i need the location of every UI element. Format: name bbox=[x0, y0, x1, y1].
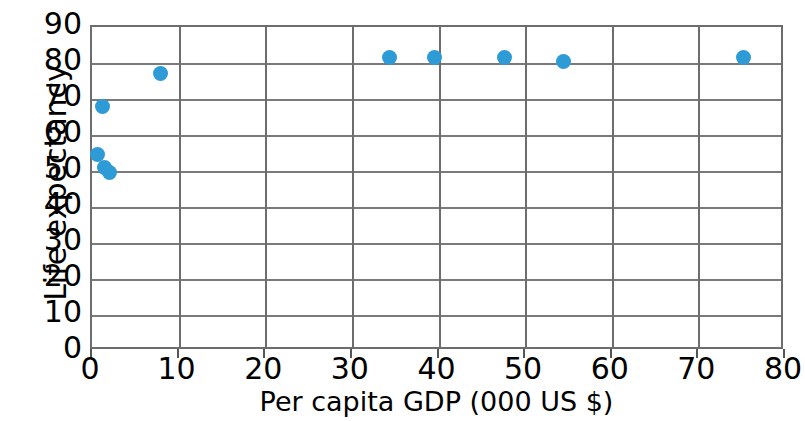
x-axis-title: Per capita GDP (000 US $) bbox=[90, 386, 783, 417]
data-point bbox=[427, 50, 442, 65]
gridline-horizontal bbox=[92, 207, 781, 209]
gridline-horizontal bbox=[92, 171, 781, 173]
data-point bbox=[102, 165, 117, 180]
gridline-vertical bbox=[698, 27, 700, 347]
y-tick-label: 80 bbox=[36, 45, 82, 75]
x-tick-label: 50 bbox=[488, 353, 558, 385]
gridline-horizontal bbox=[92, 243, 781, 245]
y-tick-label: 60 bbox=[36, 117, 82, 147]
gridline-vertical bbox=[439, 27, 441, 347]
y-tick-label: 30 bbox=[36, 225, 82, 255]
y-tick-label: 40 bbox=[36, 189, 82, 219]
data-point bbox=[95, 99, 110, 114]
x-tick-label: 0 bbox=[55, 353, 125, 385]
data-point bbox=[556, 54, 571, 69]
gridline-horizontal bbox=[92, 279, 781, 281]
x-tick-label: 70 bbox=[661, 353, 731, 385]
gridline-horizontal bbox=[92, 315, 781, 317]
gridline-vertical bbox=[612, 27, 614, 347]
gridline-vertical bbox=[265, 27, 267, 347]
y-tick-label: 50 bbox=[36, 153, 82, 183]
x-tick-label: 80 bbox=[748, 353, 805, 385]
gridline-vertical bbox=[179, 27, 181, 347]
x-tick-label: 60 bbox=[575, 353, 645, 385]
x-tick-label: 10 bbox=[142, 353, 212, 385]
gridline-horizontal bbox=[92, 135, 781, 137]
data-point bbox=[497, 50, 512, 65]
plot-area bbox=[90, 25, 783, 349]
y-tick-label: 70 bbox=[36, 81, 82, 111]
data-point bbox=[736, 50, 751, 65]
data-point bbox=[153, 66, 168, 81]
gridline-vertical bbox=[525, 27, 527, 347]
y-tick-label: 10 bbox=[36, 297, 82, 327]
x-tick-label: 40 bbox=[402, 353, 472, 385]
gridline-horizontal bbox=[92, 99, 781, 101]
gridline-vertical bbox=[352, 27, 354, 347]
y-tick-label: 90 bbox=[36, 9, 82, 39]
y-tick-label: 20 bbox=[36, 261, 82, 291]
data-point bbox=[382, 50, 397, 65]
x-tick-label: 30 bbox=[315, 353, 385, 385]
x-tick-label: 20 bbox=[228, 353, 298, 385]
